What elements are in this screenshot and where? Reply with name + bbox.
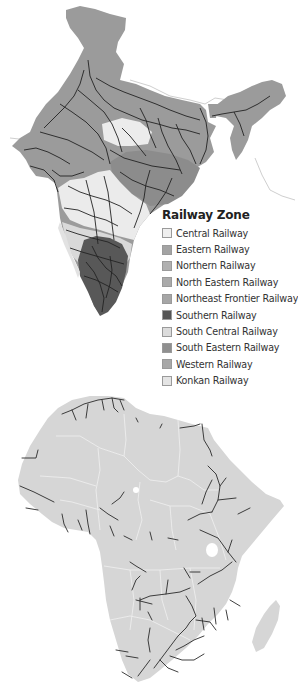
swatch-north-eastern: [162, 277, 172, 287]
legend-item-south-eastern: South Eastern Railway: [162, 340, 298, 356]
legend-item-eastern: Eastern Railway: [162, 241, 298, 257]
africa-landmass: [18, 396, 284, 682]
legend-label: Northeast Frontier Railway: [176, 293, 298, 304]
africa-railway-map: [0, 385, 298, 697]
legend-label: Southern Railway: [176, 310, 257, 321]
legend-item-south-central: South Central Railway: [162, 323, 298, 339]
legend-label: Western Railway: [176, 359, 252, 370]
swatch-northern: [162, 261, 172, 271]
legend-item-northeast-frontier: Northeast Frontier Railway: [162, 291, 298, 307]
legend-item-central: Central Railway: [162, 225, 298, 241]
legend-title: Railway Zone: [162, 208, 298, 222]
legend-label: South Eastern Railway: [176, 342, 279, 353]
swatch-southern: [162, 310, 172, 320]
swatch-south-eastern: [162, 343, 172, 353]
legend-label: Eastern Railway: [176, 244, 250, 255]
legend-item-northern: Northern Railway: [162, 258, 298, 274]
swatch-south-central: [162, 327, 172, 337]
lake-chad: [133, 487, 139, 493]
swatch-western: [162, 359, 172, 369]
swatch-eastern: [162, 245, 172, 255]
legend-label: South Central Railway: [176, 326, 278, 337]
legend-item-southern: Southern Railway: [162, 307, 298, 323]
legend-label: Central Railway: [176, 228, 248, 239]
legend-label: North Eastern Railway: [176, 277, 278, 288]
swatch-northeast-frontier: [162, 294, 172, 304]
railway-zone-legend: Railway Zone Central Railway Eastern Rai…: [162, 208, 298, 389]
legend-item-western: Western Railway: [162, 356, 298, 372]
lake-victoria: [206, 543, 218, 557]
legend-label: Northern Railway: [176, 260, 256, 271]
legend-item-north-eastern: North Eastern Railway: [162, 274, 298, 290]
swatch-central: [162, 228, 172, 238]
